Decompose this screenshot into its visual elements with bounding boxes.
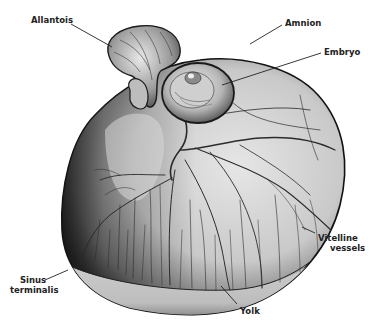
label-amnion: Amnion xyxy=(285,18,321,28)
label-sinus-line2: terminalis xyxy=(10,285,56,295)
label-vitelline: Vitelline vessels xyxy=(318,233,365,253)
label-embryo: Embryo xyxy=(324,47,360,57)
label-sinus-terminalis: Sinus terminalis xyxy=(10,275,56,295)
embryo xyxy=(170,72,214,108)
illustration xyxy=(0,0,375,330)
label-allantois: Allantois xyxy=(31,15,73,25)
label-yolk: Yolk xyxy=(240,306,260,316)
label-vitelline-line1: Vitelline xyxy=(318,233,365,243)
label-vitelline-line2: vessels xyxy=(318,243,365,253)
label-sinus-line1: Sinus xyxy=(10,275,56,285)
allantois-leader xyxy=(71,24,112,47)
amnion xyxy=(162,63,234,123)
yolk-sac-diagram: Allantois Amnion Embryo Vitelline vessel… xyxy=(0,0,375,330)
amnion-leader xyxy=(250,25,282,44)
